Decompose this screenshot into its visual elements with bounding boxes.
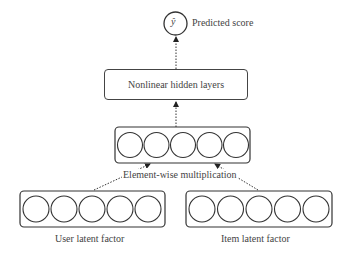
hidden-layers-label: Nonlinear hidden layers	[128, 79, 224, 90]
user-label: User latent factor	[55, 233, 124, 244]
output-label: Predicted score	[192, 17, 253, 28]
output-node	[164, 12, 187, 35]
item-label: Item latent factor	[221, 233, 290, 244]
hidden-layers-box: Nonlinear hidden layers	[104, 69, 248, 100]
output-symbol: ŷ	[171, 16, 175, 27]
item-latent-layer	[186, 191, 332, 227]
user-latent-layer	[20, 191, 165, 227]
diagram-canvas	[0, 0, 348, 253]
merge-layer	[115, 127, 250, 163]
merge-label: Element-wise multiplication	[122, 169, 238, 180]
